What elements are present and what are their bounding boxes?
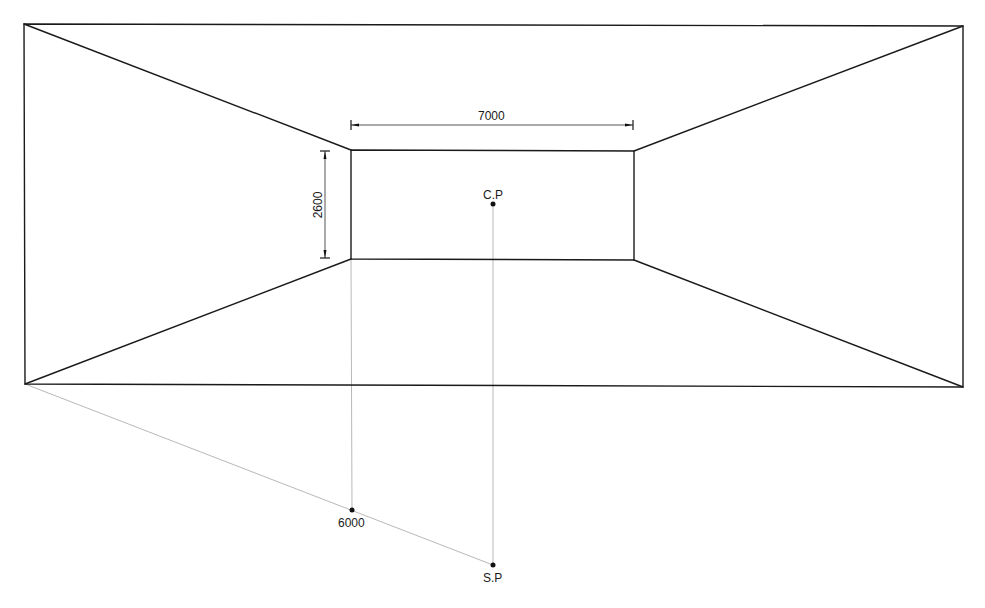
floor-right-edge (634, 260, 963, 387)
distance-mark-dot (350, 508, 355, 513)
measuring-line (25, 384, 493, 565)
ceiling-right-edge (634, 26, 963, 151)
station-point-label: S.P (483, 572, 502, 584)
station-point-dot (491, 563, 496, 568)
floor-left-edge (25, 259, 351, 384)
distance-mark-label: 6000 (338, 517, 365, 529)
center-point-dot (491, 202, 496, 207)
perspective-drawing (0, 0, 985, 608)
center-point-label: C.P (483, 189, 503, 201)
ceiling-left-edge (24, 24, 351, 150)
width-dimension-label: 7000 (478, 110, 505, 122)
height-dimension-label: 2600 (312, 189, 324, 221)
